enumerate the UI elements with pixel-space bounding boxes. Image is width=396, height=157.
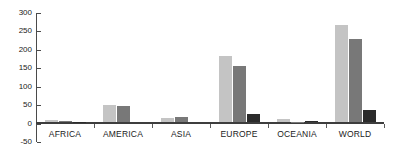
bar-group bbox=[94, 11, 152, 122]
y-tick-label: 300 bbox=[4, 9, 32, 17]
bar bbox=[247, 114, 260, 122]
bar bbox=[45, 120, 58, 122]
y-tick-mark bbox=[37, 142, 41, 143]
bar-group bbox=[268, 11, 326, 122]
bar-group bbox=[152, 11, 210, 122]
bar-group bbox=[326, 11, 384, 122]
bar bbox=[175, 117, 188, 122]
x-tick-mark bbox=[326, 124, 327, 128]
bar-chart: 300250200150100500-50 AFRICAAMERICAASIAE… bbox=[0, 0, 396, 157]
x-tick-label: OCEANIA bbox=[268, 130, 326, 139]
bar bbox=[161, 118, 174, 122]
bar bbox=[349, 39, 362, 122]
x-tick-mark bbox=[210, 124, 211, 128]
y-tick-label: 100 bbox=[4, 83, 32, 91]
x-tick-mark bbox=[268, 124, 269, 128]
x-tick-mark bbox=[152, 124, 153, 128]
y-tick-label: 200 bbox=[4, 46, 32, 54]
plot-area bbox=[36, 13, 384, 122]
x-tick-label: AFRICA bbox=[36, 130, 94, 139]
bar bbox=[363, 110, 376, 122]
y-tick-label: 150 bbox=[4, 64, 32, 72]
x-tick-label: AMERICA bbox=[94, 130, 152, 139]
bar-group bbox=[36, 11, 94, 122]
x-tick-mark bbox=[384, 124, 385, 128]
bar bbox=[59, 121, 72, 122]
bar bbox=[305, 121, 318, 122]
x-tick-label: ASIA bbox=[152, 130, 210, 139]
y-tick-label: 50 bbox=[4, 101, 32, 109]
bar-group bbox=[210, 11, 268, 122]
x-tick-mark bbox=[94, 124, 95, 128]
bar bbox=[117, 106, 130, 122]
bar bbox=[103, 105, 116, 122]
x-tick-label: WORLD bbox=[326, 130, 384, 139]
bar bbox=[219, 56, 232, 122]
bar bbox=[277, 119, 290, 122]
y-tick-label: 0 bbox=[4, 120, 32, 128]
y-tick-label: 250 bbox=[4, 27, 32, 35]
bar bbox=[335, 25, 348, 122]
bar bbox=[233, 66, 246, 122]
x-tick-label: EUROPE bbox=[210, 130, 268, 139]
y-tick-label: -50 bbox=[4, 138, 32, 146]
